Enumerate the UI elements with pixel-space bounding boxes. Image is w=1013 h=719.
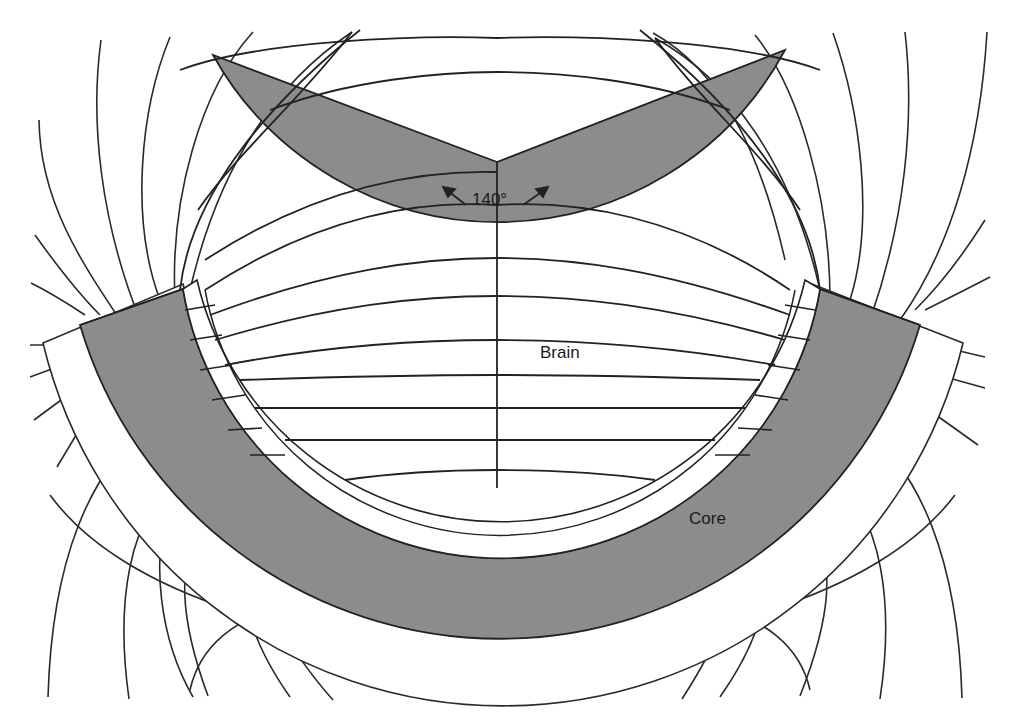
core-label: Core [689,509,726,529]
angle-label: 140° [472,190,507,210]
brain-label: Brain [540,343,580,363]
field-diagram [0,0,1013,719]
